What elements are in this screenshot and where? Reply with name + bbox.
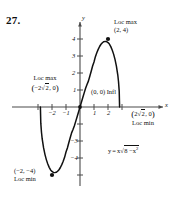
y-tick-label--3: −3 xyxy=(70,137,78,144)
annotation-loc-max-right-line1: Loc max xyxy=(114,18,170,26)
annotation-loc-min-right: (2√2, 0) Loc min xyxy=(114,108,172,127)
paren-close: ) xyxy=(56,84,59,93)
annotation-inflection: (0, 0) Infl xyxy=(91,88,116,96)
annotation-loc-max-left-line2: (−2√2, 0) xyxy=(14,82,76,93)
radicand: 2 xyxy=(45,83,49,92)
coef: −2 xyxy=(34,84,41,91)
y-axis-label: y xyxy=(82,14,85,21)
point-local-max xyxy=(106,37,110,41)
annotation-loc-max-right: Loc max (2, 4) xyxy=(114,18,170,34)
radical-icon: √2 xyxy=(41,82,49,92)
y-tick-label--4: −4 xyxy=(70,154,78,161)
annotation-loc-max-left: Loc max (−2√2, 0) xyxy=(14,74,76,93)
y-tick-label-3: 3 xyxy=(72,52,75,59)
x-tick-label-1: 1 xyxy=(93,109,96,116)
x-tick-label--1: −1 xyxy=(62,109,70,116)
annotation-loc-min-left-line1: (−2, −4) xyxy=(14,167,66,175)
equation-label: y=x√8 −x2 xyxy=(108,144,139,155)
x-axis-label: x xyxy=(165,101,168,108)
x-tick-label-2: 2 xyxy=(107,109,110,116)
x-tick-label--2: −2 xyxy=(48,109,56,116)
annotation-loc-max-right-line2: (2, 4) xyxy=(114,26,170,34)
y-tick-label-4: 4 xyxy=(72,35,75,42)
radical-icon: √8 −x2 xyxy=(120,144,139,155)
annotation-loc-min-left: (−2, −4) Loc min xyxy=(14,167,66,183)
radicand: 2 xyxy=(141,109,145,118)
annotation-loc-max-left-line1: Loc max xyxy=(14,74,76,82)
paren-close: ) xyxy=(152,110,155,119)
radical-icon: √2 xyxy=(137,108,145,118)
annotation-loc-min-left-line2: Loc min xyxy=(14,175,66,183)
point-inflection xyxy=(78,105,82,109)
annotation-loc-min-right-line1: (2√2, 0) xyxy=(114,108,172,119)
equation-exponent: 2 xyxy=(136,146,138,151)
figure-page: 27. xyxy=(0,0,176,199)
equation-radicand: 8 −x2 xyxy=(124,145,139,155)
annotation-loc-min-right-line2: Loc min xyxy=(114,119,172,127)
